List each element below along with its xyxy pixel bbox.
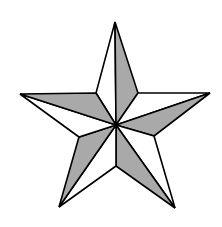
nautical-star-icon bbox=[0, 0, 222, 227]
star-figure bbox=[0, 0, 222, 227]
